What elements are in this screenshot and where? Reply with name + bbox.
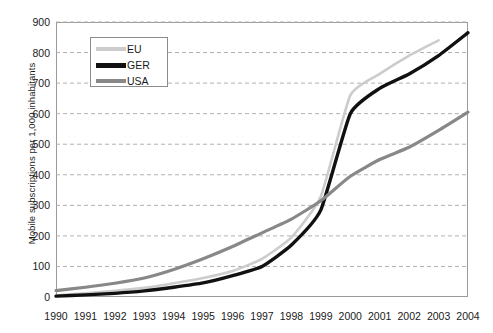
legend-swatch-ger xyxy=(96,63,126,68)
legend-label-usa: USA xyxy=(127,76,149,87)
legend-swatch-usa xyxy=(96,79,126,83)
legend-item-1: GER xyxy=(91,57,167,73)
y-tick-label: 800 xyxy=(6,48,50,58)
y-tick-label: 600 xyxy=(6,109,50,119)
x-axis-tick-labels: 1990199119921993199419951996199719981999… xyxy=(0,310,493,328)
y-tick-label: 700 xyxy=(6,78,50,88)
line-chart: Mobile subscriptions per 1,000 inhabitan… xyxy=(0,0,493,333)
y-tick-label: 100 xyxy=(6,261,50,271)
y-tick-label: 400 xyxy=(6,170,50,180)
legend-label-eu: EU xyxy=(127,44,142,55)
legend-swatch-eu xyxy=(96,47,126,51)
legend-item-2: USA xyxy=(91,73,167,89)
x-tick-label: 2004 xyxy=(448,310,488,322)
legend-item-0: EU xyxy=(91,41,167,57)
y-tick-label: 200 xyxy=(6,231,50,241)
legend: EU GER USA xyxy=(90,37,168,87)
y-tick-label: 0 xyxy=(6,292,50,302)
legend-label-ger: GER xyxy=(127,60,150,71)
y-axis-tick-labels: 0100200300400500600700800900 xyxy=(6,15,50,303)
y-tick-label: 500 xyxy=(6,139,50,149)
series-line-usa xyxy=(56,112,468,290)
y-tick-label: 900 xyxy=(6,17,50,27)
y-tick-label: 300 xyxy=(6,200,50,210)
